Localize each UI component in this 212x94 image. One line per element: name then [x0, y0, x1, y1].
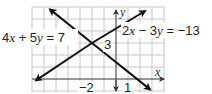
line-4x-plus-5y-eq-7-lower [92, 43, 150, 89]
axis-label-y: y [119, 5, 126, 19]
axis-label-x: x [154, 65, 161, 79]
tick-label-x-neg2: −2 [79, 80, 94, 94]
tick-label-y-3: 3 [104, 37, 111, 52]
equation-label-2: 2x − 3y = −13 [122, 23, 200, 38]
tick-label-x-1: 1 [124, 80, 131, 94]
equation-label-1: 4x + 5y = 7 [2, 30, 65, 45]
coordinate-graph: 4x + 5y = 7 2x − 3y = −13 3 −2 1 x y [0, 0, 212, 94]
